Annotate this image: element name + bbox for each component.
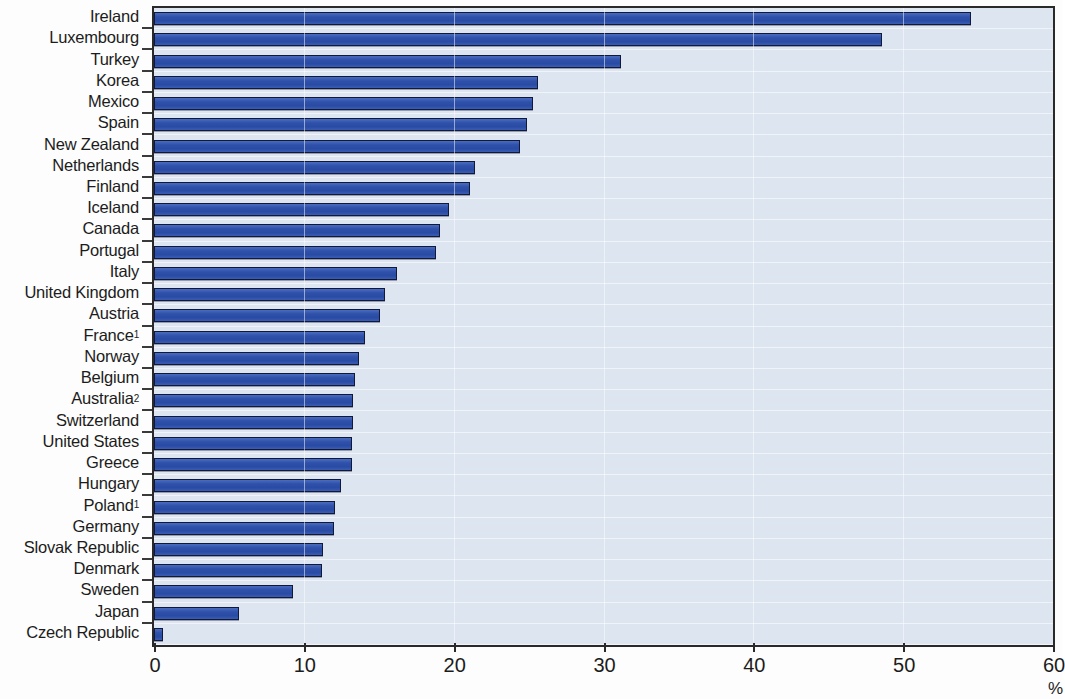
category-label: Spain <box>0 112 146 133</box>
category-label: Austria <box>0 303 146 324</box>
bar[interactable] <box>154 118 527 131</box>
axis-unit-label: % <box>1048 679 1063 699</box>
value-tick <box>154 643 156 652</box>
bar[interactable] <box>154 437 352 450</box>
category-label: Ireland <box>0 6 146 27</box>
value-axis: % 0102030405060 <box>152 643 1055 699</box>
value-tick <box>604 643 606 652</box>
category-label: Canada <box>0 218 146 239</box>
bar[interactable] <box>154 543 323 556</box>
value-tick <box>1053 643 1055 652</box>
bar[interactable] <box>154 309 380 322</box>
gridline <box>304 8 305 645</box>
category-label: Turkey <box>0 48 146 69</box>
category-label: Germany <box>0 516 146 537</box>
category-label: Sweden <box>0 579 146 600</box>
bar[interactable] <box>154 394 353 407</box>
category-label: Poland1 <box>0 494 146 515</box>
category-label: United Kingdom <box>0 282 146 303</box>
value-tick <box>454 643 456 652</box>
category-label: United States <box>0 431 146 452</box>
value-tick <box>753 643 755 652</box>
category-label: Norway <box>0 346 146 367</box>
bar[interactable] <box>154 373 355 386</box>
bar[interactable] <box>154 12 971 25</box>
bar[interactable] <box>154 76 538 89</box>
category-label: Netherlands <box>0 155 146 176</box>
category-label: Greece <box>0 452 146 473</box>
value-tick <box>903 643 905 652</box>
bar[interactable] <box>154 182 470 195</box>
value-tick-label: 0 <box>149 654 160 677</box>
value-tick-label: 50 <box>893 654 915 677</box>
bar[interactable] <box>154 97 533 110</box>
bar[interactable] <box>154 288 385 301</box>
category-label: New Zealand <box>0 133 146 154</box>
value-tick-label: 30 <box>593 654 615 677</box>
category-label: Korea <box>0 70 146 91</box>
category-label: Hungary <box>0 473 146 494</box>
bar[interactable] <box>154 33 882 46</box>
bar[interactable] <box>154 267 397 280</box>
gridline <box>753 8 754 645</box>
category-label: Italy <box>0 261 146 282</box>
category-label: Finland <box>0 176 146 197</box>
category-label: Iceland <box>0 197 146 218</box>
bar[interactable] <box>154 246 436 259</box>
bar[interactable] <box>154 458 352 471</box>
value-tick-label: 10 <box>294 654 316 677</box>
category-label: Luxembourg <box>0 27 146 48</box>
bar[interactable] <box>154 479 341 492</box>
bar[interactable] <box>154 161 475 174</box>
bar[interactable] <box>154 501 335 514</box>
category-axis-labels: IrelandLuxembourgTurkeyKoreaMexicoSpainN… <box>0 6 146 643</box>
bar[interactable] <box>154 140 520 153</box>
category-label: Australia2 <box>0 388 146 409</box>
bar[interactable] <box>154 224 440 237</box>
category-label: Japan <box>0 601 146 622</box>
bar[interactable] <box>154 416 353 429</box>
category-label: Switzerland <box>0 409 146 430</box>
category-label: Denmark <box>0 558 146 579</box>
gridline <box>454 8 455 645</box>
bar[interactable] <box>154 352 359 365</box>
value-tick-label: 20 <box>444 654 466 677</box>
category-label: Belgium <box>0 367 146 388</box>
category-label: Mexico <box>0 91 146 112</box>
gridline <box>903 8 904 645</box>
value-tick-label: 60 <box>1043 654 1065 677</box>
value-tick <box>304 643 306 652</box>
gridline <box>604 8 605 645</box>
bar[interactable] <box>154 203 449 216</box>
bar[interactable] <box>154 564 322 577</box>
bar[interactable] <box>154 331 365 344</box>
bar[interactable] <box>154 607 239 620</box>
category-label: Slovak Republic <box>0 537 146 558</box>
bar[interactable] <box>154 585 293 598</box>
value-tick-label: 40 <box>743 654 765 677</box>
category-label: Portugal <box>0 240 146 261</box>
bar[interactable] <box>154 522 334 535</box>
plot-area <box>152 6 1055 647</box>
category-label: Czech Republic <box>0 622 146 643</box>
bar[interactable] <box>154 55 621 68</box>
bar[interactable] <box>154 628 163 641</box>
category-label: France1 <box>0 325 146 346</box>
